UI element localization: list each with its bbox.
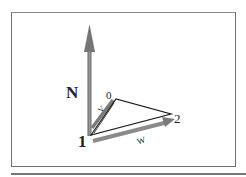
normal-vector-arrow bbox=[84, 24, 95, 136]
normal-label: N bbox=[66, 83, 79, 102]
vertex-2-label: 2 bbox=[174, 111, 181, 126]
vertex-1-label: 1 bbox=[78, 132, 87, 151]
w-vector-arrow bbox=[93, 117, 175, 141]
triangle-normal-diagram: N 0 1 2 V W bbox=[0, 0, 246, 177]
vertex-0-label: 0 bbox=[106, 89, 112, 101]
edge-w-label: W bbox=[136, 134, 148, 146]
